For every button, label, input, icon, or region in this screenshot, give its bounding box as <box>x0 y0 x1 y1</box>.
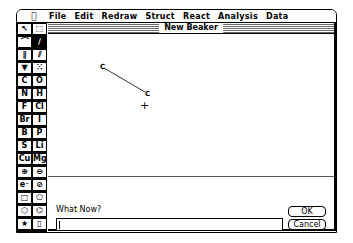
menu-redraw[interactable]: Redraw <box>102 12 138 21</box>
drawing-canvas[interactable]: C C + <box>48 34 334 177</box>
electron-tool[interactable]: e⁻ <box>18 180 31 190</box>
atom-carbon-1[interactable]: C <box>100 64 105 71</box>
triple-bond-tool[interactable]: ⫽ <box>33 50 46 60</box>
magnesium-tool[interactable]: Mg <box>33 154 46 164</box>
eraser-tool[interactable]: ⊘ <box>33 180 46 190</box>
chlorine-tool[interactable]: Cl <box>33 102 46 112</box>
menubar:  File Edit Redraw Struct React Analysis… <box>17 10 336 23</box>
template-tool[interactable]: ▯ <box>33 219 46 229</box>
menu-data[interactable]: Data <box>266 12 288 21</box>
menu-analysis[interactable]: Analysis <box>218 12 258 21</box>
lithium-tool[interactable]: Li <box>33 141 46 151</box>
marquee-select-tool[interactable]: ⬚ <box>33 24 46 34</box>
hydrogen-tool[interactable]: H <box>33 89 46 99</box>
ok-button[interactable]: OK <box>288 206 326 217</box>
benzene-tool[interactable]: ⌬ <box>33 206 46 216</box>
command-input[interactable] <box>56 218 283 231</box>
bromine-tool[interactable]: Br <box>18 115 31 125</box>
single-bond-tool[interactable]: ∕ <box>33 37 46 47</box>
negative-charge-tool[interactable]: ⊖ <box>33 167 46 177</box>
oxygen-tool[interactable]: O <box>33 76 46 86</box>
cancel-button[interactable]: Cancel <box>288 219 326 230</box>
arrow-select-tool[interactable]: ↖ <box>18 24 31 34</box>
mac-screen:  File Edit Redraw Struct React Analysis… <box>16 9 337 233</box>
positive-charge-tool[interactable]: ⊕ <box>18 167 31 177</box>
nitrogen-tool[interactable]: N <box>18 89 31 99</box>
star-tool[interactable]: ★ <box>18 219 31 229</box>
window-title: New Beaker <box>159 23 223 33</box>
menu-struct[interactable]: Struct <box>145 12 175 21</box>
beaker-window: New Beaker C C + What Now? OK Cancel <box>48 23 336 231</box>
sulfur-tool[interactable]: S <box>18 141 31 151</box>
apple-menu-icon[interactable]:  <box>27 11 41 21</box>
atom-carbon-2[interactable]: C <box>145 91 150 98</box>
double-bond-tool[interactable]: ∥ <box>18 50 31 60</box>
lasso-tool[interactable]: ⌒ <box>18 37 31 47</box>
window-title-bar[interactable]: New Beaker <box>48 23 334 34</box>
menu-react[interactable]: React <box>183 12 210 21</box>
text-caret <box>59 221 60 229</box>
ring4-tool[interactable]: □ <box>18 193 31 203</box>
boron-tool[interactable]: B <box>18 128 31 138</box>
carbon-tool[interactable]: C <box>18 76 31 86</box>
single-bond[interactable] <box>104 68 145 92</box>
iodine-tool[interactable]: I <box>33 115 46 125</box>
fluorine-tool[interactable]: F <box>18 102 31 112</box>
ring6-tool[interactable]: ⬡ <box>18 206 31 216</box>
phosphorus-tool[interactable]: P <box>33 128 46 138</box>
hash-bond-tool[interactable]: ⁙ <box>33 63 46 73</box>
menu-file[interactable]: File <box>49 12 67 21</box>
ring5-tool[interactable]: ⬠ <box>33 193 46 203</box>
tool-palette: ↖⬚⌒∕∥⫽▼⁙CONHFClBrIBPSLiCuMg⊕⊖e⁻⊘□⬠⬡⌬★▯ <box>17 23 47 233</box>
copper-tool[interactable]: Cu <box>18 154 31 164</box>
prompt-label: What Now? <box>56 205 101 214</box>
crosshair-cursor-icon: + <box>140 100 149 111</box>
menu-edit[interactable]: Edit <box>75 12 94 21</box>
bond-layer <box>48 34 334 176</box>
wedge-bond-tool[interactable]: ▼ <box>18 63 31 73</box>
